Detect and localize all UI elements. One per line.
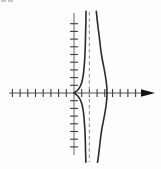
cropped-page-mark xyxy=(1,0,6,2)
curve-inner-branch xyxy=(74,93,86,162)
x-axis-arrowhead xyxy=(141,89,155,97)
figure-page xyxy=(0,0,161,169)
curve-outer-branch xyxy=(96,11,107,162)
cropped-page-mark xyxy=(8,0,13,2)
curve-plot xyxy=(0,0,161,169)
